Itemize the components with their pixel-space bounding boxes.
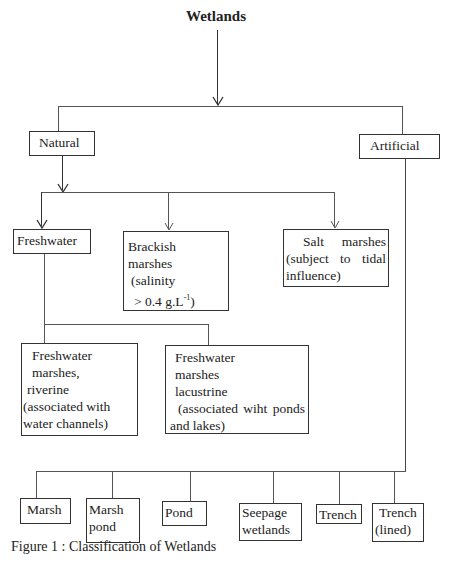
connector-line: [58, 106, 59, 131]
arrowhead-icon: [212, 96, 224, 106]
node-brackish-marshes: Brackish marshes (salinity > 0.4 g.L-1): [123, 231, 229, 311]
arrowhead-icon: [36, 219, 48, 229]
text-line: pond: [89, 518, 135, 535]
text-line: (associated wiht ponds: [170, 400, 305, 417]
text-line: Freshwater: [27, 347, 134, 364]
text-line: Seepage: [242, 504, 299, 521]
text-line: (subject to tidal: [286, 250, 386, 267]
text-line: Trench: [375, 504, 421, 521]
connector-line: [36, 471, 37, 498]
connector-line: [190, 471, 191, 501]
text-line: (lined): [375, 521, 421, 538]
connector-line: [44, 324, 209, 325]
node-trench: Trench: [316, 504, 362, 524]
text-line: marshes: [170, 366, 305, 383]
node-marsh-pond: Marsh pond: [86, 498, 140, 543]
text-line: and lakes): [170, 417, 305, 434]
text-line: (salinity: [128, 272, 224, 289]
text-line: marshes: [128, 255, 224, 272]
figure-caption: Figure 1 : Classification of Wetlands: [11, 539, 216, 555]
diagram-title: Wetlands: [186, 8, 246, 25]
node-natural: Natural: [29, 131, 95, 156]
text-span: Salt: [303, 233, 324, 250]
connector-line: [339, 471, 340, 504]
node-seepage-wetlands: Seepage wetlands: [239, 503, 302, 541]
text-line: marshes,: [27, 364, 134, 381]
node-freshwater-riverine: Freshwater marshes, riverine (associated…: [21, 343, 138, 436]
text-line: wetlands: [242, 521, 299, 538]
salinity-line: > 0.4 g.L-1): [128, 289, 224, 310]
connector-line: [405, 159, 406, 472]
node-trench-lined: Trench (lined): [372, 503, 424, 542]
arrowhead-icon: [330, 220, 340, 229]
connector-line: [217, 30, 218, 104]
connector-line: [208, 324, 209, 345]
text-line: water channels): [23, 415, 134, 432]
connector-line: [273, 471, 274, 503]
connector-line: [58, 106, 402, 107]
text-span: > 0.4 g.L: [134, 294, 184, 309]
text-line: Marsh: [89, 501, 135, 518]
connector-line: [402, 106, 403, 134]
arrowhead-icon: [164, 222, 174, 231]
connector-line: [41, 192, 334, 193]
connector-line: [394, 471, 395, 504]
text-line: lacustrine: [170, 383, 305, 400]
text-span: marshes: [342, 233, 386, 250]
text-line: Freshwater: [170, 349, 305, 366]
text-line: Brackish: [128, 238, 224, 255]
connector-line: [36, 471, 406, 472]
node-marsh: Marsh: [20, 498, 71, 524]
text-span: ): [190, 294, 195, 309]
connector-line: [44, 254, 45, 343]
node-artificial: Artificial: [359, 134, 440, 159]
text-line: influence): [286, 267, 386, 284]
text-line: riverine: [27, 381, 134, 398]
connector-line: [112, 471, 113, 498]
text-line: Saltmarshes: [286, 233, 386, 250]
node-freshwater-lacustrine: Freshwater marshes lacustrine (associate…: [165, 345, 309, 434]
node-pond: Pond: [162, 501, 207, 526]
text-line: (associated with: [23, 398, 134, 415]
node-salt-marshes: Saltmarshes (subject to tidal influence): [283, 229, 389, 287]
node-freshwater: Freshwater: [13, 229, 91, 254]
